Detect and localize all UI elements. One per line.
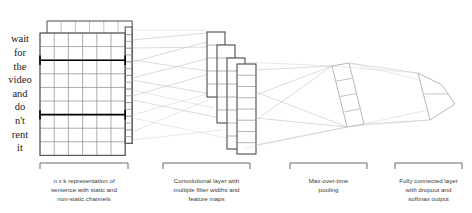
caption-line: softmax output [408, 195, 449, 202]
architecture-diagram-canvas: wait for the video and do n't rent it [0, 0, 472, 213]
word-label: wait [11, 33, 29, 44]
word-label: video [8, 74, 31, 85]
caption-line: multiple filter widths and [173, 186, 240, 193]
caption-line: Convolutional layer with [174, 177, 240, 184]
caption-line: n x k representation of [53, 177, 115, 184]
caption-embedding: n x k representation of sentence with st… [51, 177, 118, 202]
embedding-matrix-front-channel [40, 33, 125, 155]
word-label: rent [12, 129, 28, 140]
conv-feature-map-4 [237, 64, 256, 154]
caption-pooling: Max-over-time pooling [309, 177, 349, 193]
word-label: for [14, 47, 27, 58]
caption-line: feature maps [188, 195, 224, 202]
word-label: do [15, 101, 26, 112]
conv-to-pool-connectors [245, 62, 347, 148]
word-label: the [14, 61, 27, 72]
sentence-word-labels: wait for the video and do n't rent it [8, 33, 31, 153]
word-label: it [17, 142, 23, 153]
stage-bracket-convolution [163, 163, 250, 169]
caption-line: pooling [319, 186, 340, 193]
stage-bracket-pooling [290, 163, 367, 169]
stage-bracket-embedding [40, 163, 128, 169]
caption-line: with dropout and [405, 186, 452, 193]
channel-edge-strip [125, 27, 132, 143]
word-label: and [12, 88, 28, 99]
max-pool-column [332, 63, 364, 127]
caption-convolution: Convolutional layer with multiple filter… [173, 177, 240, 202]
word-label: n't [15, 115, 25, 126]
caption-output: Fully connected layer with dropout and s… [399, 177, 457, 202]
caption-line: non-static channels [57, 195, 110, 202]
caption-line: Fully connected layer [399, 177, 457, 184]
caption-line: sentence with static and [51, 186, 118, 193]
cnn-architecture-figure: wait for the video and do n't rent it [0, 0, 472, 213]
caption-line: Max-over-time [309, 177, 349, 184]
softmax-output-column [418, 73, 455, 120]
stage-bracket-output [395, 163, 462, 169]
